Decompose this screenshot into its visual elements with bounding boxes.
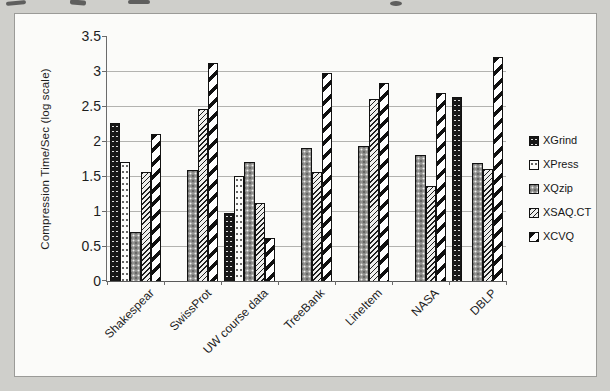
- legend-item-xcvq: XCVQ: [529, 230, 591, 243]
- bar-xgrind-uw-course-data: [224, 213, 234, 281]
- legend-label: XCVQ: [543, 230, 574, 243]
- wide-diagonal-stripe-swatch-icon: [529, 232, 539, 242]
- bar-xcvq-lineitem: [379, 83, 389, 281]
- bar-slot: [120, 162, 130, 281]
- bar-xsaqct-shakespear: [141, 172, 151, 281]
- bar-slot: [379, 83, 389, 281]
- fine-diagonal-hatch-swatch-icon: [529, 208, 539, 218]
- bar-slot: [244, 162, 254, 281]
- bar-slot: [187, 170, 197, 281]
- bar-group-shakespear: [107, 36, 164, 281]
- plot-area: [106, 36, 506, 282]
- y-tick-label-3: 3: [15, 63, 101, 79]
- y-tick-label-1.5: 1.5: [15, 168, 101, 184]
- bar-slot: [110, 123, 120, 281]
- bar-xcvq-treebank: [322, 73, 332, 281]
- y-tick-label-1: 1: [15, 203, 101, 219]
- bar-slot: [415, 155, 425, 281]
- x-category-label-treebank: TreeBank: [282, 286, 328, 332]
- bar-slot: [198, 109, 208, 281]
- bar-xqzip-uw-course-data: [244, 162, 254, 281]
- bar-slot: [452, 97, 462, 281]
- x-tick-mark: [449, 281, 450, 285]
- bar-slot: [322, 73, 332, 281]
- bar-slot: [436, 93, 446, 281]
- cropped-text-fragment: [6, 0, 26, 6]
- bar-slot: [151, 134, 161, 281]
- bar-slot: [265, 238, 275, 281]
- x-category-label-nasa: NASA: [409, 286, 442, 319]
- bar-slot: [358, 146, 368, 281]
- gray-speckled-swatch-icon: [529, 184, 539, 194]
- bar-xqzip-shakespear: [130, 232, 140, 281]
- cropped-text-fragment: [390, 1, 402, 6]
- bar-group-nasa: [392, 36, 449, 281]
- bar-group-uw-course-data: [221, 36, 278, 281]
- bar-xcvq-shakespear: [151, 134, 161, 281]
- bar-group-swissprot: [164, 36, 221, 281]
- chart-container: Compression Time/Sec (log scale) 3.532.5…: [14, 13, 597, 377]
- bar-slot: [483, 169, 493, 281]
- bar-slot: [234, 176, 244, 281]
- cropped-text-fragment: [128, 0, 150, 4]
- bar-slot: [224, 213, 234, 281]
- bar-xcvq-swissprot: [208, 63, 218, 281]
- bar-slot: [369, 99, 379, 281]
- x-tick-mark: [278, 281, 279, 285]
- x-tick-mark: [506, 281, 507, 285]
- legend-label: XPress: [543, 158, 578, 171]
- bar-xsaqct-treebank: [312, 172, 322, 281]
- x-category-label-lineitem: LineItem: [342, 286, 384, 328]
- bar-xpress-shakespear: [120, 162, 130, 281]
- bar-slot: [472, 163, 482, 281]
- bar-xcvq-dblp: [493, 57, 503, 281]
- legend-item-xqzip: XQzip: [529, 182, 591, 195]
- bar-group-treebank: [278, 36, 335, 281]
- bar-slot: [255, 203, 265, 281]
- legend-label: XSAQ.CT: [543, 206, 591, 219]
- legend-item-xsaqct: XSAQ.CT: [529, 206, 591, 219]
- legend-item-xgrind: XGrind: [529, 134, 591, 147]
- bar-slot: [130, 232, 140, 281]
- legend-label: XQzip: [543, 182, 573, 195]
- y-tick-label-2: 2: [15, 133, 101, 149]
- x-category-label-dblp: DBLP: [467, 286, 499, 318]
- x-tick-mark: [392, 281, 393, 285]
- x-tick-mark: [221, 281, 222, 285]
- bar-xsaqct-uw-course-data: [255, 203, 265, 281]
- bar-xcvq-nasa: [436, 93, 446, 281]
- bar-xsaqct-nasa: [426, 186, 436, 281]
- bar-xqzip-nasa: [415, 155, 425, 281]
- bar-xqzip-swissprot: [187, 170, 197, 281]
- bar-group-lineitem: [335, 36, 392, 281]
- y-tick-label-0.5: 0.5: [15, 238, 101, 254]
- cropped-text-fragment: [70, 0, 86, 6]
- legend: XGrindXPressXQzipXSAQ.CTXCVQ: [529, 134, 591, 254]
- legend-item-xpress: XPress: [529, 158, 591, 171]
- bar-xcvq-uw-course-data: [265, 238, 275, 281]
- y-tick-label-3.5: 3.5: [15, 28, 101, 44]
- bar-xgrind-dblp: [452, 97, 462, 281]
- bar-xqzip-lineitem: [358, 146, 368, 281]
- bar-group-dblp: [449, 36, 506, 281]
- x-category-label-swissprot: SwissProt: [166, 286, 214, 334]
- x-tick-mark: [164, 281, 165, 285]
- bar-slot: [208, 63, 218, 281]
- bar-xsaqct-swissprot: [198, 109, 208, 281]
- y-tick-label-0: 0: [15, 273, 101, 289]
- bar-xpress-uw-course-data: [234, 176, 244, 281]
- legend-label: XGrind: [543, 134, 577, 147]
- figure-page: Compression Time/Sec (log scale) 3.532.5…: [0, 0, 610, 391]
- white-dotted-swatch-icon: [529, 160, 539, 170]
- bar-slot: [493, 57, 503, 281]
- bar-xqzip-treebank: [301, 148, 311, 281]
- x-tick-mark: [107, 281, 108, 285]
- black-speckled-swatch-icon: [529, 136, 539, 146]
- bar-xsaqct-lineitem: [369, 99, 379, 281]
- bar-xsaqct-dblp: [483, 169, 493, 281]
- bar-slot: [312, 172, 322, 281]
- x-category-label-shakespear: Shakespear: [102, 286, 157, 341]
- bar-slot: [141, 172, 151, 281]
- bar-slot: [301, 148, 311, 281]
- y-tick-label-2.5: 2.5: [15, 98, 101, 114]
